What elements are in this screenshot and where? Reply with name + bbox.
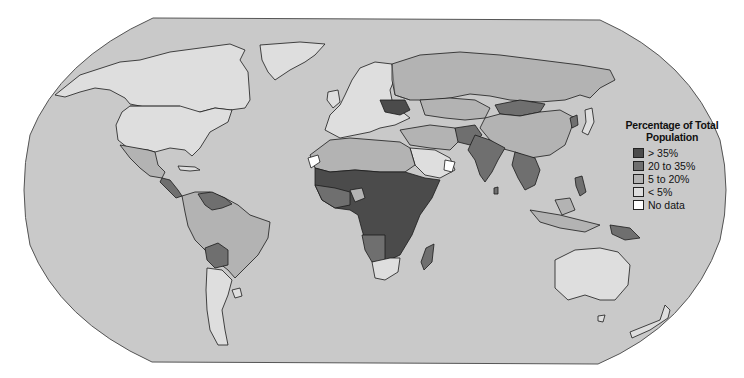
legend-item-no-data: No data (633, 198, 732, 211)
region-sri-lanka (494, 187, 498, 194)
legend-swatch (633, 161, 644, 171)
legend-item-lt5: < 5% (633, 185, 732, 198)
legend-label: 20 to 35% (648, 160, 695, 172)
legend-title-line2: Population (612, 131, 732, 143)
legend-label: No data (648, 199, 685, 211)
legend-label: < 5% (648, 186, 672, 198)
legend-item-20-35: 20 to 35% (633, 159, 732, 172)
legend: Percentage of Total Population > 35% 20 … (612, 119, 732, 211)
legend-label: 5 to 20% (648, 173, 689, 185)
legend-item-5-20: 5 to 20% (633, 172, 732, 185)
legend-item-gt35: > 35% (633, 146, 732, 159)
legend-label: > 35% (648, 147, 678, 159)
legend-title-line1: Percentage of Total (612, 119, 732, 131)
legend-swatch (633, 200, 644, 210)
region-north-africa (310, 138, 415, 172)
legend-swatch (633, 148, 644, 158)
legend-swatch (633, 174, 644, 184)
region-australia (555, 248, 630, 300)
legend-swatch (633, 187, 644, 197)
